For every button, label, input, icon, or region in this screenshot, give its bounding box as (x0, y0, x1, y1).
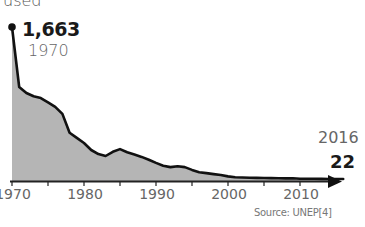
start-point-marker (8, 23, 16, 31)
y-label-fragment: used (3, 0, 41, 10)
arrow-head-icon (328, 175, 342, 188)
source-caption: Source: UNEP[4] (254, 207, 332, 218)
x-tick-label-1970: 1970 (0, 186, 31, 202)
end-year-annotation: 2016 (318, 128, 359, 147)
start-year-annotation: 1970 (28, 41, 69, 60)
x-tick-label-2010: 2010 (283, 186, 319, 202)
x-tick-label-2000: 2000 (211, 186, 247, 202)
start-value-annotation: 1,663 (22, 18, 80, 40)
x-tick-label-1990: 1990 (139, 186, 175, 202)
end-value-annotation: 22 (330, 151, 355, 172)
x-tick-label-1980: 1980 (67, 186, 103, 202)
